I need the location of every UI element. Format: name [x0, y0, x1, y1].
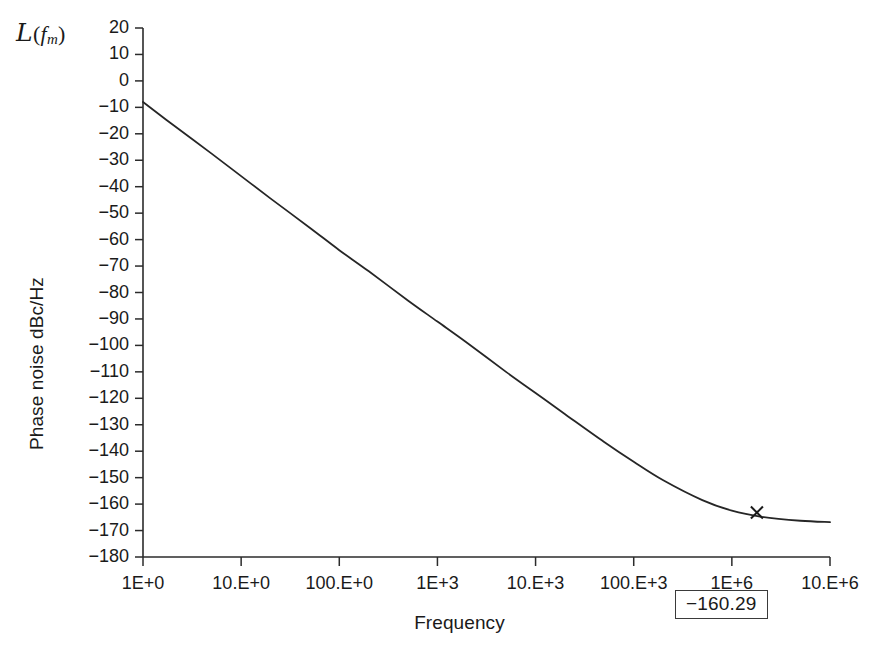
series-group: [143, 102, 830, 522]
y-tick-label: −180: [59, 546, 129, 567]
y-tick-label: −20: [59, 123, 129, 144]
y-tick-label: −60: [59, 229, 129, 250]
readout-value-box: −160.29: [675, 590, 768, 619]
y-tick-label: 10: [59, 43, 129, 64]
plot-canvas: [0, 0, 879, 653]
y-tick-label: −170: [59, 520, 129, 541]
y-tick-label: −40: [59, 176, 129, 197]
phase-noise-chart: L(fm) Phase noise dBc/Hz Frequency 20100…: [0, 0, 879, 653]
y-ticks-group: [135, 28, 143, 557]
y-tick-label: −150: [59, 467, 129, 488]
y-tick-label: −100: [59, 334, 129, 355]
y-tick-label: −140: [59, 440, 129, 461]
axes-group: [143, 28, 830, 557]
x-ticks-group: [143, 557, 830, 566]
y-tick-label: −90: [59, 308, 129, 329]
y-tick-label: −160: [59, 493, 129, 514]
x-tick-label: 10.E+6: [770, 573, 879, 594]
y-tick-label: −80: [59, 282, 129, 303]
y-tick-label: −50: [59, 202, 129, 223]
y-tick-label: 20: [59, 17, 129, 38]
y-tick-label: −10: [59, 96, 129, 117]
y-tick-label: −130: [59, 414, 129, 435]
y-tick-label: −30: [59, 149, 129, 170]
y-tick-label: 0: [59, 70, 129, 91]
y-tick-label: −120: [59, 387, 129, 408]
phase-noise-curve: [143, 102, 830, 522]
y-tick-label: −70: [59, 255, 129, 276]
y-tick-label: −110: [59, 361, 129, 382]
